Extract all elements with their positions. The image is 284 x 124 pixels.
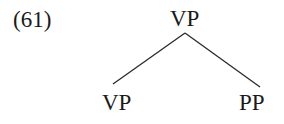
node-left-child: VP [102, 91, 131, 114]
node-root: VP [170, 7, 199, 30]
branch-right [185, 33, 260, 87]
branch-left [113, 33, 185, 84]
node-right-child: PP [239, 91, 265, 114]
